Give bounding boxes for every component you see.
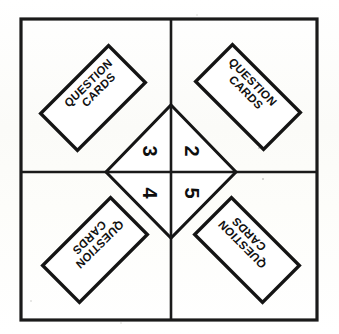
card-shape-top-left[interactable] <box>41 46 146 151</box>
card-shape-bottom-right[interactable] <box>195 198 300 303</box>
card-shape-top-right[interactable] <box>196 45 301 150</box>
board-canvas <box>0 0 339 334</box>
question-cards-diagram: QUESTION CARDS QUESTION CARDS QUESTION C… <box>0 0 339 334</box>
card-shape-bottom-left[interactable] <box>43 198 148 303</box>
